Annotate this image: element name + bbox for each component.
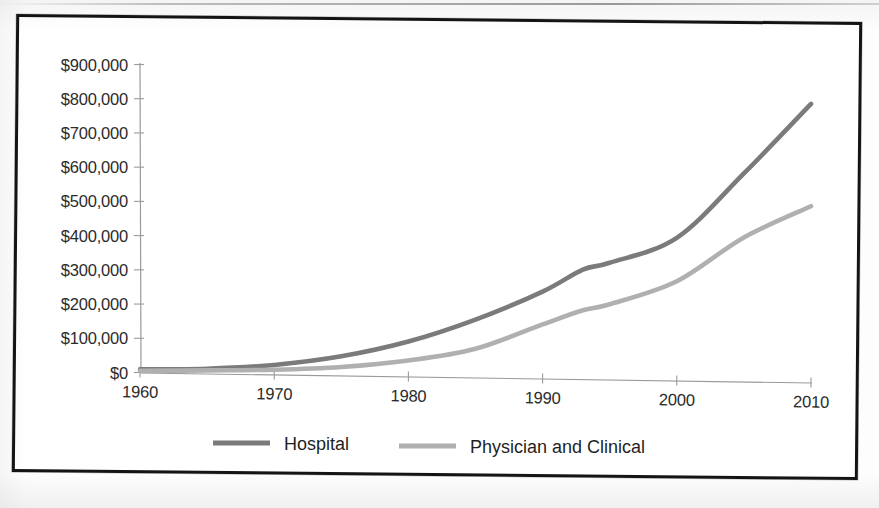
- series-line-physician-and-clinical: [140, 206, 811, 371]
- y-axis-tick-label: $400,000: [61, 227, 128, 245]
- chart-canvas: $0$100,000$200,000$300,000$400,000$500,0…: [0, 0, 879, 508]
- legend-label-hospital: Hospital: [284, 434, 349, 454]
- y-axis-tick-label: $800,000: [61, 90, 128, 108]
- chart-legend: Hospital Physician and Clinical: [213, 434, 645, 457]
- x-axis-tick-label: 1990: [525, 388, 561, 407]
- y-axis-tick-label: $300,000: [61, 261, 128, 279]
- x-axis-tick-label: 1960: [122, 382, 158, 401]
- x-axis-tick-label: 2000: [659, 390, 695, 409]
- y-axis-tick-label: $600,000: [61, 158, 128, 176]
- line-chart: $0$100,000$200,000$300,000$400,000$500,0…: [0, 0, 879, 508]
- x-axis-tick-label: 1980: [390, 386, 426, 405]
- y-axis-ticks: [134, 65, 144, 373]
- x-axis-tick-labels: 196019701980199020002010: [122, 382, 829, 411]
- y-axis-tick-label: $200,000: [61, 295, 128, 313]
- y-axis-tick-labels: $0$100,000$200,000$300,000$400,000$500,0…: [61, 56, 128, 382]
- y-axis-tick-label: $0: [110, 364, 128, 382]
- y-axis-tick-label: $900,000: [61, 56, 128, 74]
- y-axis-tick-label: $700,000: [61, 124, 128, 142]
- series-line-hospital: [140, 104, 811, 369]
- x-axis-tick-label: 2010: [793, 392, 829, 411]
- y-axis-tick-label: $500,000: [61, 192, 128, 210]
- y-axis-line: [140, 63, 141, 373]
- x-axis-line: [140, 373, 812, 383]
- legend-label-physician-and-clinical: Physician and Clinical: [470, 437, 645, 457]
- x-axis-tick-label: 1970: [256, 384, 292, 403]
- y-axis-tick-label: $100,000: [61, 329, 128, 347]
